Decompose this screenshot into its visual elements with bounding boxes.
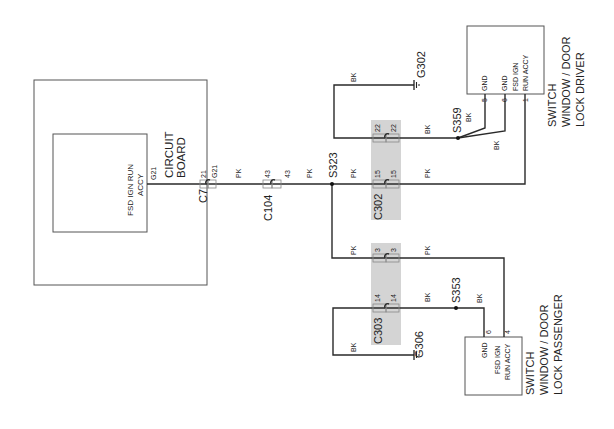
wire-color-pk-5: PK [350, 245, 357, 255]
circuit-board-box [34, 80, 207, 285]
s353-label: S353 [450, 277, 462, 303]
pk-wire-passenger [332, 184, 504, 337]
c303-label: C303 [372, 318, 384, 344]
c7-pin-b: G21 [211, 165, 218, 178]
c104-label: C104 [262, 195, 274, 221]
passenger-pin-4-label-2: RUN ACCY [504, 343, 511, 380]
driver-pin-6-label: GND [501, 75, 508, 91]
g302-ground-icon [414, 80, 419, 90]
c303-pin-14a: 14 [374, 294, 381, 302]
passenger-pin-6-label: GND [481, 342, 488, 358]
wire-color-pk-2: PK [306, 168, 313, 178]
driver-switch-title-3: LOCK DRIVER [574, 52, 586, 127]
passenger-switch-title-2: WINDOW / DOOR [538, 305, 550, 395]
wire-color-bk-g302: BK [350, 72, 357, 82]
c303-pin-3b: 3 [390, 248, 397, 252]
driver-switch-title-2: WINDOW / DOOR [560, 37, 572, 127]
wire-color-bk-g306: BK [350, 342, 357, 352]
driver-switch-title-1: SWITCH [546, 84, 558, 127]
c302-pin-22a: 22 [374, 124, 381, 132]
wire-color-pk-1: PK [235, 168, 242, 178]
wire-color-bk-s359: BK [424, 124, 431, 134]
g302-label: G302 [415, 51, 427, 78]
passenger-pin-4-number: 4 [504, 330, 511, 334]
module-label-1: FSD IGN RUN [126, 164, 135, 216]
passenger-switch-title-1: SWITCH [524, 352, 536, 395]
s353-splice-dot [454, 306, 458, 310]
wire-color-bk-pin6: BK [493, 140, 500, 150]
passenger-pin-4-label-1: FSD IGN [494, 346, 501, 374]
s359-splice-dot [456, 136, 460, 140]
c303-pin-14b: 14 [390, 294, 397, 302]
c302-pin-15a: 15 [374, 170, 381, 178]
driver-pin-1-label-1: FSD IGN [512, 63, 519, 91]
c104-pin-a: 43 [264, 170, 271, 178]
circuit-board-title-2: BOARD [175, 137, 187, 178]
wiring-diagram: CIRCUIT BOARD FSD IGN RUN ACCY G21 C7 21… [0, 0, 614, 429]
driver-pin-5-label: GND [481, 75, 488, 91]
c302-label: C302 [372, 194, 384, 220]
c104-pin-b: 43 [284, 170, 291, 178]
driver-pin-5-number: 5 [481, 98, 488, 102]
driver-pin-6-number: 6 [501, 98, 508, 102]
s323-splice-dot [330, 182, 334, 186]
c7-pin-a: 21 [200, 170, 207, 178]
wire-color-bk-pin5: BK [465, 112, 472, 122]
c7-label: C7 [197, 189, 209, 203]
wire-color-pk-6: PK [424, 245, 431, 255]
s323-label: S323 [327, 152, 339, 178]
g306-label: G306 [413, 331, 425, 358]
driver-pin-1-label-2: RUN ACCY [522, 54, 529, 91]
passenger-pin-6-number: 6 [485, 330, 492, 334]
module-pin-g21: G21 [150, 167, 157, 180]
c302-pin-15b: 15 [390, 170, 397, 178]
module-label-2: ACCY [136, 173, 145, 196]
driver-pin-1-number: 1 [522, 98, 529, 102]
c303-pin-3a: 3 [374, 248, 381, 252]
c302-pin-22b: 22 [390, 124, 397, 132]
circuit-board-title-1: CIRCUIT [163, 131, 175, 178]
passenger-switch-title-3: LOCK PASSENGER [552, 294, 564, 395]
wire-color-bk-c303: BK [424, 292, 431, 302]
wire-color-pk-3: PK [350, 168, 357, 178]
s359-label: S359 [451, 107, 463, 133]
wire-color-pk-4: PK [424, 168, 431, 178]
wire-color-bk-s353: BK [476, 293, 483, 303]
